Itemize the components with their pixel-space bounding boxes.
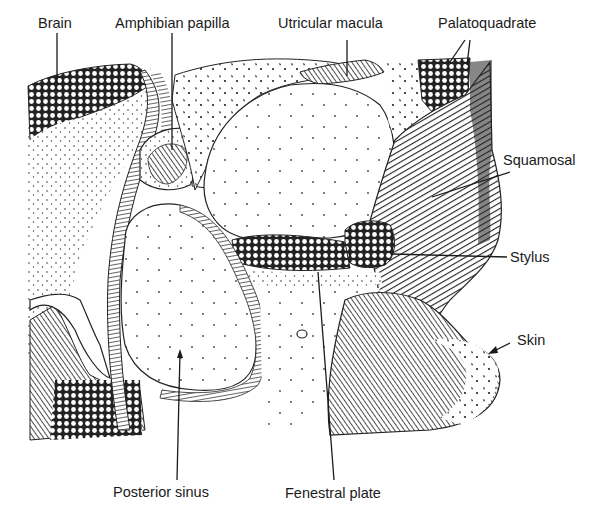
stylus-structure	[345, 221, 395, 268]
label-amphibian-papilla: Amphibian papilla	[115, 15, 230, 31]
label-posterior-sinus: Posterior sinus	[113, 484, 209, 500]
skin-arrowhead	[488, 346, 498, 354]
lower-right-tissue	[328, 293, 500, 436]
label-skin: Skin	[517, 332, 545, 348]
label-squamosal: Squamosal	[503, 152, 576, 168]
label-utricular-macula: Utricular macula	[278, 15, 384, 31]
label-stylus: Stylus	[510, 249, 550, 265]
label-brain: Brain	[38, 15, 72, 31]
label-fenestral-plate: Fenestral plate	[285, 485, 381, 501]
label-palatoquadrate: Palatoquadrate	[438, 15, 536, 31]
ear-cross-section-diagram: Brain Amphibian papilla Utricular macula…	[0, 0, 602, 514]
